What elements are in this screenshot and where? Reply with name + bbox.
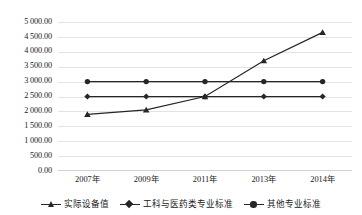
- y-axis-tick-label: 4 500.00: [0, 33, 52, 41]
- legend-key: [41, 200, 61, 209]
- y-axis-tick-label: 0.00: [0, 167, 52, 175]
- y-axis-tick-label: 2 000.00: [0, 107, 52, 115]
- line-chart: 5 000.004 500.004 000.003 500.003 000.00…: [0, 0, 362, 215]
- x-axis-tick-label: 2007年: [57, 175, 117, 185]
- gridline: [58, 156, 352, 157]
- legend-label: 其他专业标准: [267, 200, 321, 209]
- x-axis-tick-label: 2009年: [116, 175, 176, 185]
- legend-label: 实际设备值: [64, 200, 109, 209]
- triangle-marker-icon: [48, 201, 54, 207]
- y-axis-tick-label: 1 500.00: [0, 122, 52, 130]
- legend-key: [244, 200, 264, 209]
- x-axis-tick-labels: 2007年2009年2011年2013年2014年: [58, 175, 352, 189]
- y-axis-tick-label: 5 000.00: [0, 18, 52, 26]
- gridline: [58, 52, 352, 53]
- gridline: [58, 126, 352, 127]
- chart-legend: 实际设备值工科与医药类专业标准其他专业标准: [0, 196, 362, 213]
- y-axis-tick-label: 4 000.00: [0, 47, 52, 55]
- y-axis-tick-label: 3 500.00: [0, 62, 52, 70]
- gridline: [58, 67, 352, 68]
- legend-entry[interactable]: 工科与医药类专业标准: [120, 200, 233, 209]
- gridline: [58, 22, 352, 23]
- legend-key: [120, 200, 140, 209]
- x-axis-tick-label: 2011年: [175, 175, 235, 185]
- gridline: [58, 37, 352, 38]
- legend-entry[interactable]: 其他专业标准: [244, 200, 321, 209]
- gridline: [58, 141, 352, 142]
- gridline: [58, 97, 352, 98]
- diamond-marker-icon: [125, 200, 134, 209]
- y-axis-tick-label: 3 000.00: [0, 77, 52, 85]
- x-axis-line: [58, 170, 352, 171]
- y-axis-tick-label: 1 000.00: [0, 137, 52, 145]
- x-axis-tick-label: 2013年: [234, 175, 294, 185]
- gridline: [58, 82, 352, 83]
- circle-marker-icon: [250, 201, 256, 207]
- gridline: [58, 111, 352, 112]
- legend-label: 工科与医药类专业标准: [143, 200, 233, 209]
- y-axis-tick-label: 500.00: [0, 152, 52, 160]
- y-axis-tick-labels: 5 000.004 500.004 000.003 500.003 000.00…: [0, 0, 56, 215]
- x-axis-tick-label: 2014年: [293, 175, 353, 185]
- y-axis-tick-label: 2 500.00: [0, 92, 52, 100]
- legend-entry[interactable]: 实际设备值: [41, 200, 109, 209]
- plot-area: [58, 22, 352, 171]
